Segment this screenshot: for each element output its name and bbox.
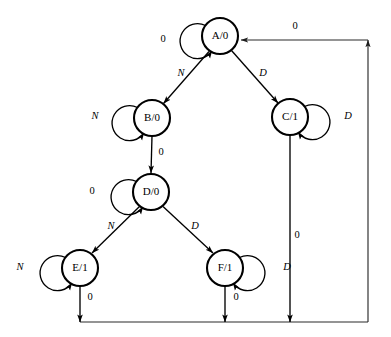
self-loop-label-B: N — [90, 110, 99, 121]
self-loop-label-E: N — [15, 261, 24, 272]
edge-A-to-C — [232, 51, 279, 104]
state-label-F: F/1 — [218, 261, 233, 273]
edge-B-to-D — [151, 136, 152, 173]
edge-A-to-B — [164, 52, 210, 104]
edge-label-D-to-E: N — [106, 220, 115, 231]
self-loop-label-A: 0 — [160, 33, 165, 44]
state-label-D: D/0 — [143, 185, 160, 197]
state-label-C: C/1 — [282, 110, 298, 122]
self-loop-label-F: D — [282, 261, 291, 272]
state-label-B: B/0 — [144, 111, 160, 123]
edge-label-A-to-C: D — [258, 67, 267, 78]
state-label-E: E/1 — [72, 261, 87, 273]
fsm-canvas: A/0 B/0 C/1 D/0 E/1 F/1 0 N D 0 N D — [0, 0, 391, 337]
edge-label-D-to-F: D — [190, 220, 199, 231]
edge-D-to-F — [163, 207, 213, 254]
self-loop-label-C: D — [343, 110, 352, 121]
state-node-C[interactable]: C/1 — [272, 99, 308, 135]
edge-label-A-to-B: N — [176, 67, 185, 78]
state-node-A[interactable]: A/0 — [202, 18, 238, 54]
state-node-D[interactable]: D/0 — [133, 174, 169, 210]
edge-D-to-E — [92, 207, 140, 254]
state-diagram: A/0 B/0 C/1 D/0 E/1 F/1 0 N D 0 N D — [0, 0, 391, 337]
edge-label-B-to-D: 0 — [158, 146, 163, 157]
state-node-B[interactable]: B/0 — [134, 100, 170, 136]
state-node-F[interactable]: F/1 — [207, 250, 243, 286]
edge-label-C-to-bus: 0 — [294, 229, 299, 240]
edge-label-F-to-bus: 0 — [233, 291, 238, 302]
edge-label-bus-to-A: 0 — [292, 20, 297, 31]
state-node-E[interactable]: E/1 — [62, 250, 98, 286]
edge-label-E-to-bus: 0 — [87, 291, 92, 302]
state-label-A: A/0 — [212, 29, 229, 41]
self-loop-label-D: 0 — [89, 185, 94, 196]
